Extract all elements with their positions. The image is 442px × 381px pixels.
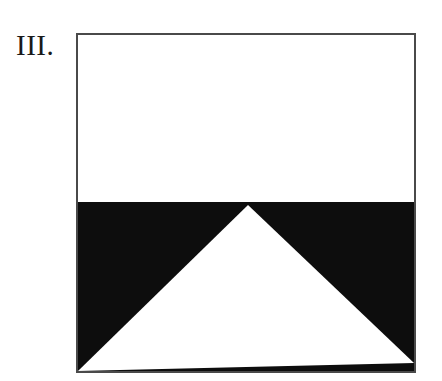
figure-canvas bbox=[76, 33, 416, 373]
figure-root: III. bbox=[0, 0, 442, 381]
figure-label: III. bbox=[16, 31, 54, 60]
figure-svg bbox=[76, 33, 416, 373]
